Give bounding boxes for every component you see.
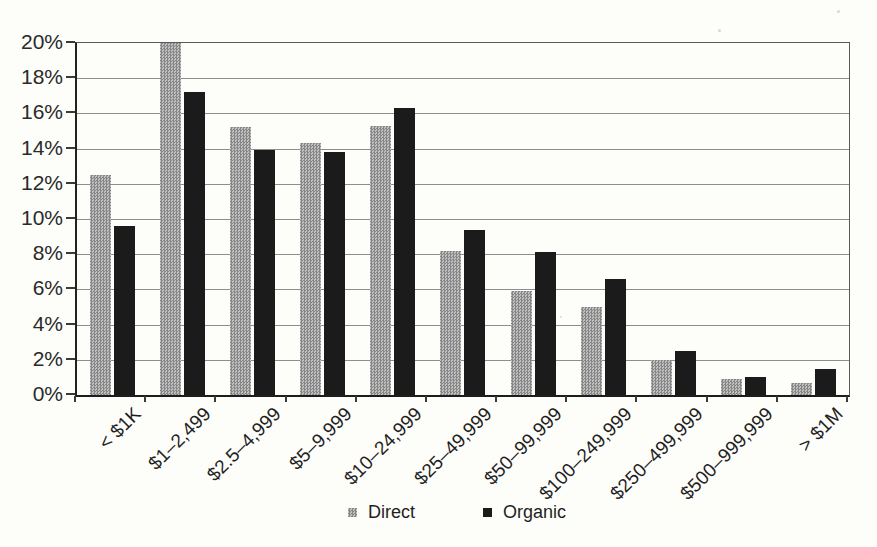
y-tick-mark [66, 358, 75, 360]
bar-direct-5 [370, 126, 391, 395]
y-tick-mark [66, 182, 75, 184]
bar-group-2 [147, 43, 217, 395]
bar-organic-7 [535, 252, 556, 395]
bar-organic-8 [605, 279, 626, 395]
y-tick-label: 20% [3, 31, 63, 53]
legend-item-direct: Direct [348, 502, 415, 523]
legend-label: Direct [368, 502, 415, 523]
chart-canvas: DirectOrganic 0%2%4%6%8%10%12%14%16%18%2… [0, 0, 877, 547]
bar-organic-10 [745, 377, 766, 395]
y-tick-label: 6% [3, 277, 63, 299]
bar-group-8 [568, 43, 638, 395]
scan-speck [718, 29, 721, 32]
x-category-label: $1–2,499 [144, 403, 216, 475]
bar-direct-6 [440, 251, 461, 395]
bar-group-11 [779, 43, 849, 395]
bar-organic-9 [675, 351, 696, 395]
bar-group-4 [288, 43, 358, 395]
x-tick-mark [706, 396, 708, 402]
x-tick-mark [776, 396, 778, 402]
y-tick-mark [66, 252, 75, 254]
bar-direct-9 [651, 360, 672, 395]
bar-group-3 [217, 43, 287, 395]
legend: DirectOrganic [348, 502, 566, 523]
x-tick-mark [846, 396, 848, 402]
y-tick-label: 18% [3, 66, 63, 88]
bar-group-1 [77, 43, 147, 395]
bar-direct-7 [511, 291, 532, 395]
x-category-label: $5–9,999 [285, 403, 357, 475]
x-tick-mark [144, 396, 146, 402]
y-tick-mark [66, 323, 75, 325]
x-tick-mark [565, 396, 567, 402]
legend-swatch-organic [483, 508, 492, 517]
bar-direct-1 [90, 175, 111, 395]
bar-direct-4 [300, 143, 321, 395]
scan-speck [560, 316, 562, 318]
bar-group-9 [638, 43, 708, 395]
x-category-label: > $1M [794, 403, 847, 456]
bar-organic-11 [815, 369, 836, 395]
bar-organic-6 [464, 230, 485, 395]
bar-direct-2 [160, 43, 181, 395]
x-category-label: $2.5–4,999 [203, 403, 286, 486]
bar-group-5 [358, 43, 428, 395]
y-tick-mark [66, 217, 75, 219]
x-tick-mark [285, 396, 287, 402]
y-tick-label: 12% [3, 172, 63, 194]
bar-organic-3 [254, 150, 275, 395]
y-tick-mark [66, 287, 75, 289]
y-tick-label: 0% [3, 383, 63, 405]
y-tick-mark [66, 393, 75, 395]
y-tick-label: 4% [3, 313, 63, 335]
y-tick-mark [66, 147, 75, 149]
legend-swatch-direct [348, 508, 357, 517]
y-tick-label: 16% [3, 101, 63, 123]
bar-direct-10 [721, 379, 742, 395]
x-category-label: < $1K [95, 403, 146, 454]
bar-group-7 [498, 43, 568, 395]
y-tick-label: 14% [3, 137, 63, 159]
x-tick-mark [635, 396, 637, 402]
x-tick-mark [495, 396, 497, 402]
x-tick-mark [74, 396, 76, 402]
bar-organic-2 [184, 92, 205, 395]
legend-item-organic: Organic [483, 502, 566, 523]
y-tick-mark [66, 41, 75, 43]
y-tick-label: 8% [3, 242, 63, 264]
y-tick-label: 2% [3, 348, 63, 370]
plot-area [75, 42, 850, 397]
y-tick-label: 10% [3, 207, 63, 229]
x-tick-mark [355, 396, 357, 402]
y-tick-mark [66, 111, 75, 113]
bar-direct-11 [791, 383, 812, 395]
scan-speck [837, 10, 840, 13]
legend-label: Organic [503, 502, 566, 523]
y-tick-mark [66, 76, 75, 78]
bar-direct-8 [581, 307, 602, 395]
x-tick-mark [425, 396, 427, 402]
bar-organic-4 [324, 152, 345, 395]
bar-group-10 [709, 43, 779, 395]
x-tick-mark [214, 396, 216, 402]
bar-organic-1 [114, 226, 135, 395]
bar-organic-5 [394, 108, 415, 395]
bar-group-6 [428, 43, 498, 395]
bar-direct-3 [230, 127, 251, 395]
